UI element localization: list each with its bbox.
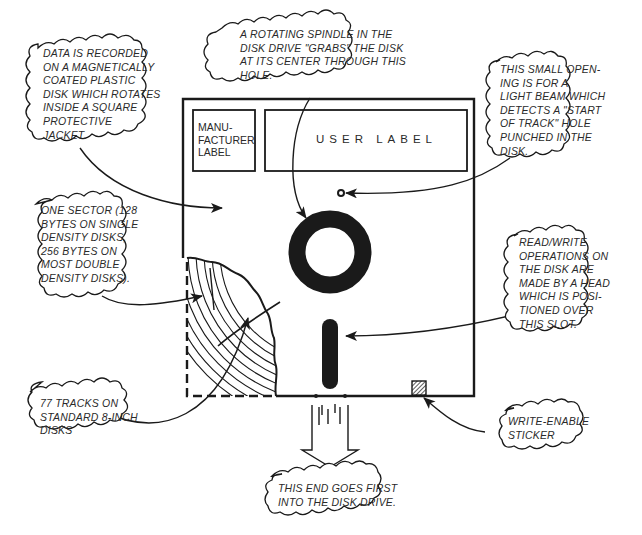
- callout-tracks: 77 TRACKS ON STANDARD 8-INCH DISKS: [40, 397, 138, 438]
- callout-spindle: A ROTATING SPINDLE IN THE DISK DRIVE "GR…: [240, 28, 406, 82]
- callout-sector: ONE SECTOR (128 BYTES ON SINGLE DENSITY …: [41, 204, 139, 286]
- insert-direction-arrow-icon: [302, 404, 358, 467]
- manufacturer-label: MANU- FACTURER LABEL: [198, 121, 255, 159]
- leader-lines: [80, 98, 540, 432]
- floppy-disk-diagram: MANU- FACTURER LABEL USER LABEL DATA IS …: [0, 0, 642, 535]
- head-slot: [322, 319, 338, 389]
- callout-index-hole: THIS SMALL OPEN- ING IS FOR A LIGHT BEAM…: [500, 63, 605, 158]
- callout-data-recorded: DATA IS RECORDED ON A MAGNETICALLY COATE…: [43, 47, 161, 142]
- callout-read-write: READ/WRITE OPERATIONS ON THE DISK ARE MA…: [519, 236, 610, 331]
- callout-insert-end: THIS END GOES FIRST INTO THE DISK DRIVE.: [278, 482, 397, 509]
- callout-write-enable: WRITE-ENABLE STICKER: [508, 415, 589, 442]
- user-label: USER LABEL: [316, 133, 437, 145]
- spindle-hole-ring: [297, 219, 363, 285]
- index-hole: [338, 190, 344, 196]
- write-enable-sticker: [412, 381, 426, 395]
